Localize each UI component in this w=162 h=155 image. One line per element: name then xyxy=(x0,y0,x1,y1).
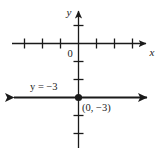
y-axis xyxy=(74,11,84,148)
origin-label: 0 xyxy=(67,48,72,59)
point-coordinate-label: (0, −3) xyxy=(82,102,111,114)
coordinate-plane-svg: y x 0 y = −3 (0, −3) xyxy=(0,0,162,155)
line-equation-label: y = −3 xyxy=(30,81,58,92)
x-axis-label: x xyxy=(149,46,155,58)
graph-figure: y x 0 y = −3 (0, −3) xyxy=(0,0,162,155)
plotted-point-marker xyxy=(75,94,82,101)
y-axis-label: y xyxy=(66,6,72,18)
